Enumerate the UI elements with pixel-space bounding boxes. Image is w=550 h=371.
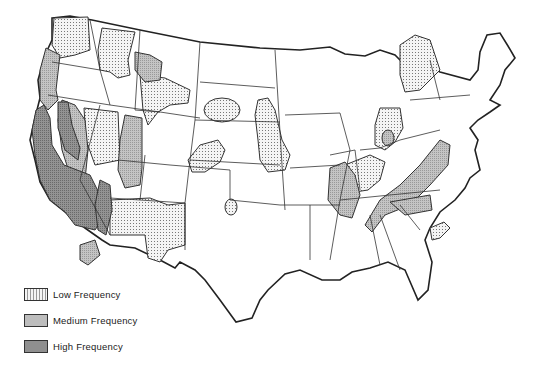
legend-item-high: High Frequency [24,339,138,353]
legend-label: High Frequency [53,341,123,352]
legend-label: Low Frequency [53,289,121,300]
medium-frequency-swatch [24,314,48,327]
low-frequency-swatch [24,288,48,301]
legend-item-low: Low Frequency [24,287,138,301]
legend-label: Medium Frequency [53,315,138,326]
legend-item-medium: Medium Frequency [24,313,138,327]
high-frequency-swatch [24,340,48,353]
legend: Low Frequency Medium Frequency High Freq… [24,287,138,365]
